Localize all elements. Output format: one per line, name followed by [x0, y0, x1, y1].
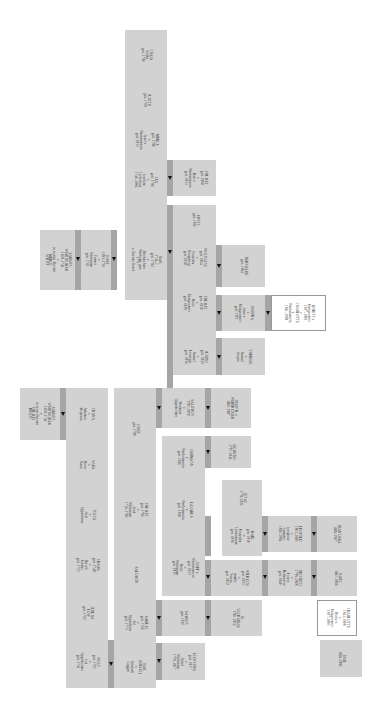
node-label: CHARLOTTE 1841–1908 ∞ Moritz v. Königswa…: [325, 608, 348, 628]
node-label: FRANZISKA 1849–1907: [333, 524, 341, 543]
node-isak-israel: ISAK (ISRAEL) ∞ Scheindl Guggen: [114, 645, 156, 688]
connector: [205, 516, 211, 556]
node-josef-r-v-wertheimer: JOSEF R. v. WERTHEIMER 1800–1887: [211, 388, 251, 428]
node-isak: ISAK 1724–? gest. 1782 ∞ Beschka Sara We…: [125, 230, 167, 290]
arrow-icon: [263, 532, 267, 536]
node-label: IGNAZ 1778–1822: [238, 490, 246, 505]
node-josepha: JOSEPHA ∞ Jonas v. Königswarter gest. 18…: [222, 295, 265, 331]
arrow-icon: [76, 257, 80, 261]
arrow-icon: [312, 532, 316, 536]
node-label: SARA ∞ Moses Kann: [79, 460, 95, 469]
node-label: SAMSON WERTHEIMER 1658–1724 ∞ in erster …: [26, 403, 53, 426]
arrow-icon: [217, 355, 221, 359]
node-label: CHANA ∞ Salomon Meiprann: [79, 407, 95, 420]
node-label: JEHUDA LÖW gest. 1765: [81, 606, 93, 620]
node-wolf: WOLF gest. 1765 ∞ Lea Oppenheimer gest. …: [66, 635, 108, 688]
node-label: HEINRICH 1799–1868 ∞ Louise Bodenstein g…: [278, 570, 301, 586]
node-label: SAMSON WERTHEIMER 1658–1724 ∞ in zweiter…: [44, 248, 71, 273]
node-label: HERMANN v. Wertheimstein gest. 1826: [176, 448, 192, 468]
node-label: JOSEF gest. 1789: [131, 422, 139, 436]
node-wilhelm: WILHELM gest. 1833 ∞ Amalie Nassau gest.…: [211, 560, 262, 596]
node-chaja-sara: CHAJA SARA gest. 1780: [125, 30, 167, 80]
node-label: JOSEF v. Wertheimstein gest. 1813 ∞ Merl…: [170, 558, 197, 578]
node-label: ERNST gest. 1830: [191, 213, 199, 227]
node-josef-wolf: JOSEF gest. 1789: [114, 388, 156, 470]
node-label: LAZARUS v. Wertheimstein gest. 1818: [176, 500, 192, 520]
node-judith-gen4: JUDITH gest. 1822 ∞ Samuel Löwinger gest…: [173, 338, 216, 375]
node-sara: SARA ∞ Moses Kann: [66, 440, 108, 490]
node-josef: JOSEF 1691–1761 ∞ Frumet Wertheimer gest…: [81, 230, 111, 290]
node-label: SALOMON: [133, 567, 137, 584]
node-wolfgang: WOLFGANG gest. 1804 ∞ Franziska Hönigsbe…: [173, 235, 216, 280]
arrow-icon: [157, 659, 161, 663]
node-label: ISAK (ISRAEL) ∞ Scheindl Guggen: [125, 659, 145, 673]
arrow-icon: [263, 575, 267, 579]
node-moritz-charlotte: MORITZ v. Königswarter 1837–1893 ∞ CHARL…: [271, 295, 326, 331]
node-zacharias: Dr. ZACHARIAS 1780–1852: [211, 600, 262, 636]
node-label: MORITZ v. Königswarter 1837–1893 ∞ CHARL…: [283, 303, 314, 323]
node-label: SAMSON gest. 1810: [180, 611, 188, 625]
arrow-icon: [157, 616, 161, 620]
node-label: JOSEF R. v. WERTHEIMER 1800–1887: [225, 397, 237, 419]
node-label: WILHELM gest. 1833 ∞ Amalie Nassau gest.…: [225, 570, 248, 586]
node-label: JUDITH gest. 1822 ∞ Samuel Löwinger gest…: [183, 350, 206, 364]
node-label: EMIL 1824–1882: [337, 651, 345, 666]
node-label: THERESE ∞ Samuel Asopos: [236, 349, 252, 364]
node-lazarus: LAZARUS v. Wertheimstein gest. 1818: [162, 480, 205, 540]
arrow-icon: [312, 575, 316, 579]
node-label: SALOMON 1785–1859 ∞ Marianne Oppenheimer: [174, 399, 194, 417]
node-label: WOLF gest. 1765 ∞ Lea Oppenheimer gest. …: [75, 652, 98, 670]
node-tolza: TOLZA ∞ Josef Oppenheim: [66, 490, 108, 540]
node-salomon-gen3: SALOMON 1785–1859 ∞ Marianne Oppenheimer: [162, 388, 205, 428]
node-lea: LEA gest. 1786 ∞ Joachim Liebschutz 1740…: [125, 160, 167, 200]
node-judith: JUDITH gest. 1769: [125, 80, 167, 120]
node-leopold: LEOPOLD 1801–1883 ∞ Josephine Gomperz 18…: [268, 516, 311, 552]
node-label: SIGMUND 1797–1824: [227, 444, 235, 460]
node-merle: MERLE gest. 1780 ∞ Josef v. Wertheimstei…: [125, 120, 167, 160]
node-frumet-wolf: FRUMET gest. 1796 ∞ Josef Wertheimer 171…: [114, 470, 156, 550]
arrow-icon: [206, 406, 210, 410]
node-karl: KARL gest. 1810 ∞ Franziska Lindenbaum g…: [222, 516, 262, 556]
node-label: CHAJA SARA gest. 1780: [140, 48, 152, 62]
node-franziska: FRANZISKA 1849–1907: [317, 516, 357, 552]
node-salomon-wolf: SALOMON: [114, 550, 156, 600]
arrow-icon: [206, 450, 210, 454]
node-label: BERNHARD gest. 1864: [240, 257, 248, 276]
node-label: LEA gest. 1786 ∞ Joachim Liebschutz 1740…: [134, 172, 157, 187]
node-label: KARL gest. 1810 ∞ Franziska Lindenbaum g…: [230, 527, 253, 544]
arrow-icon: [61, 412, 65, 416]
node-samson-merle-root: SAMSON WERTHEIMER 1658–1724 ∞ in zweiter…: [40, 230, 75, 290]
arrow-icon: [168, 250, 172, 254]
node-karl-gen6: KARL 1847–1866: [317, 560, 357, 596]
arrow-icon: [266, 311, 270, 315]
node-chawa: CHAWA gest. 1748 ∞ Baruch Eskeles gest. …: [66, 540, 108, 590]
node-label: WOLFGANG gest. 1804 ∞ Franziska Hönigsbe…: [183, 248, 206, 267]
node-bernhard: BERNHARD gest. 1864: [222, 245, 265, 287]
arrow-icon: [168, 176, 172, 180]
node-jehuda-low: JEHUDA LÖW gest. 1765: [66, 590, 108, 635]
node-ernst: ERNST gest. 1830: [173, 205, 216, 235]
node-frumet-gen4: FRUMET gest. 1810 ∞ Moriz Königswarter g…: [173, 280, 216, 325]
node-label: Dr. ZACHARIAS 1780–1852: [231, 608, 243, 627]
node-charlotte: CHARLOTTE 1841–1908 ∞ Moritz v. Königswa…: [317, 600, 357, 636]
arrow-icon: [157, 406, 161, 410]
arrow-icon: [206, 616, 210, 620]
node-therese: THERESE ∞ Samuel Asopos: [222, 338, 265, 375]
node-label: SAMUEL gest. 1766 ∞ Sel Oppenheim gest. …: [123, 615, 146, 631]
node-samson-gen3: SAMSON gest. 1810: [162, 600, 205, 636]
node-hermann: HERMANN v. Wertheimstein gest. 1826: [162, 436, 205, 480]
node-label: TOLZA ∞ Josef Oppenheim: [79, 507, 95, 523]
arrow-icon: [109, 662, 113, 666]
node-frumet-lea-child: FRUMET gest. 1808 ∞ Karl v. Wertheimstei…: [173, 160, 216, 196]
arrow-icon: [217, 264, 221, 268]
node-label: CHAWA gest. 1748 ∞ Baruch Eskeles gest. …: [75, 558, 98, 572]
node-label: LEOPOLD 1801–1883 ∞ Josephine Gomperz 18…: [278, 526, 301, 541]
node-label: JOSEPHA ∞ Jonas v. Königswarter gest. 18…: [234, 304, 254, 322]
node-ignaz: IGNAZ 1778–1822: [222, 480, 262, 516]
node-label: ELEONORA gest. 1817 ∞ David Wertheimer 1…: [172, 652, 195, 670]
node-label: FRUMET gest. 1796 ∞ Josef Wertheimer 171…: [123, 502, 146, 518]
arrow-icon: [206, 575, 210, 579]
arrow-icon: [112, 257, 116, 261]
node-chana: CHANA ∞ Salomon Meiprann: [66, 388, 108, 440]
node-sigmund: SIGMUND 1797–1824: [211, 436, 251, 468]
